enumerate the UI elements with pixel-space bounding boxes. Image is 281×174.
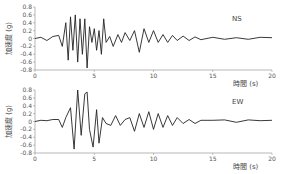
component-label: NS: [232, 15, 242, 23]
y-tick-label: 0.6: [22, 11, 32, 18]
y-tick-label: -0.6: [20, 58, 32, 65]
x-tick-label: 5: [92, 155, 96, 162]
x-tick-label: 10: [150, 155, 158, 162]
x-tick-label: 15: [209, 155, 217, 162]
y-tick-label: -0.4: [20, 133, 32, 140]
y-tick-label: 0.2: [22, 27, 32, 34]
seismogram-figure: 0.80.60.40.20-0.2-0.4-0.6-0.805101520NS時…: [0, 0, 281, 174]
y-axis-label: 加速度 (g): [4, 105, 13, 138]
x-axis-label: 時間 (s): [233, 163, 259, 171]
y-tick-label: -0.8: [20, 66, 32, 73]
x-tick-label: 0: [33, 155, 37, 162]
y-axis-label: 加速度 (g): [4, 22, 13, 55]
y-tick-label: -0.6: [20, 141, 32, 148]
y-tick-label: -0.4: [20, 50, 32, 57]
y-tick-label: 0.8: [22, 86, 32, 93]
x-axis-label: 時間 (s): [233, 80, 259, 88]
y-tick-label: 0: [28, 35, 32, 42]
x-tick-label: 5: [92, 72, 96, 79]
y-tick-label: 0.6: [22, 94, 32, 101]
x-tick-label: 15: [209, 72, 217, 79]
y-tick-label: 0.4: [22, 102, 32, 109]
x-tick-label: 0: [33, 72, 37, 79]
y-tick-label: -0.2: [20, 42, 32, 49]
y-tick-label: 0.4: [22, 19, 32, 26]
y-tick-label: -0.8: [20, 149, 32, 156]
y-tick-label: 0.8: [22, 3, 32, 10]
x-tick-label: 10: [150, 72, 158, 79]
component-label: EW: [232, 98, 243, 106]
y-tick-label: -0.2: [20, 125, 32, 132]
x-tick-label: 20: [268, 155, 276, 162]
x-tick-label: 20: [268, 72, 276, 79]
y-tick-label: 0: [28, 118, 32, 125]
y-tick-label: 0.2: [22, 110, 32, 117]
